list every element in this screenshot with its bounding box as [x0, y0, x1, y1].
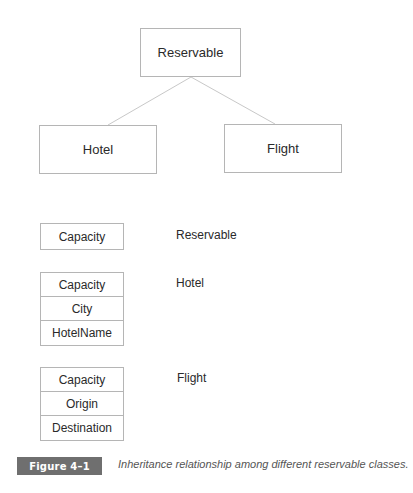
field-stack-flight: Capacity Origin Destination: [40, 367, 124, 441]
field-row: HotelName: [41, 321, 123, 345]
class-box-flight: Flight: [224, 124, 342, 173]
field-row: Destination: [41, 416, 123, 440]
figure-number-label: Figure 4–1: [17, 457, 102, 475]
class-box-reservable: Reservable: [140, 28, 241, 77]
field-stack-hotel: Capacity City HotelName: [40, 272, 124, 346]
field-stack-label-flight: Flight: [177, 371, 206, 385]
field-row: Origin: [41, 392, 123, 416]
class-box-hotel: Hotel: [39, 125, 157, 174]
class-name: Hotel: [83, 142, 113, 157]
class-name: Reservable: [158, 45, 224, 60]
edge-reservable-hotel: [108, 77, 191, 125]
figure-caption: Inheritance relationship among different…: [118, 458, 408, 470]
field-stack-reservable: Capacity: [40, 223, 124, 250]
field-stack-label-reservable: Reservable: [176, 228, 237, 242]
field-row: Capacity: [41, 368, 123, 392]
class-name: Flight: [267, 141, 299, 156]
field-row: City: [41, 297, 123, 321]
field-row: Capacity: [41, 273, 123, 297]
field-stack-label-hotel: Hotel: [176, 276, 204, 290]
edge-reservable-flight: [191, 77, 275, 124]
field-row: Capacity: [41, 224, 123, 249]
